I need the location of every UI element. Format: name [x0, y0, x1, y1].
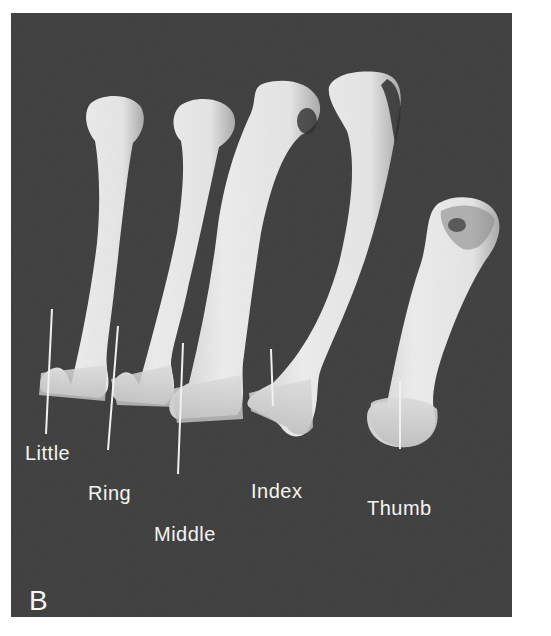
label-index: Index [251, 481, 302, 501]
label-ring: Ring [88, 483, 131, 503]
label-middle: Middle [154, 524, 216, 544]
metacarpal-bones-illustration [11, 13, 512, 617]
label-little: Little [25, 443, 70, 463]
label-thumb: Thumb [367, 498, 432, 518]
figure-photo: Little Ring Middle Index Thumb B [11, 13, 512, 617]
panel-letter: B [29, 587, 48, 615]
